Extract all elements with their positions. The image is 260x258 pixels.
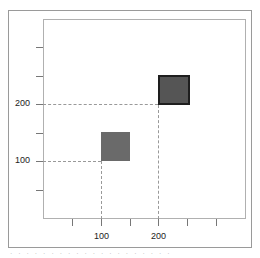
x-tick-label-200: 200 [151, 231, 166, 241]
x-tick [130, 219, 131, 226]
x-tick-label-100: 100 [94, 231, 109, 241]
y-tick [36, 190, 43, 191]
x-tick [158, 219, 159, 226]
y-tick [36, 133, 43, 134]
guide-line-y100 [43, 161, 101, 162]
plot-area [43, 19, 246, 219]
y-tick [36, 104, 43, 105]
caption-text: · · · · · · · · · · · · · · · · · · · · [10, 250, 172, 257]
guide-line-y200 [43, 104, 158, 105]
y-tick-label-100: 100 [15, 155, 30, 165]
y-tick [36, 47, 43, 48]
x-tick [72, 219, 73, 226]
guide-line-x100 [101, 161, 102, 219]
y-tick-label-200: 200 [15, 98, 30, 108]
x-tick [101, 219, 102, 226]
square-marker-100 [101, 132, 130, 161]
x-tick [216, 219, 217, 226]
x-tick [187, 219, 188, 226]
guide-line-x200 [158, 105, 159, 219]
y-tick [36, 161, 43, 162]
square-marker-200 [158, 75, 190, 105]
y-tick [36, 76, 43, 77]
